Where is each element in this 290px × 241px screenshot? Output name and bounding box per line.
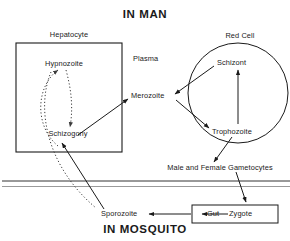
node-label-gametocytes: Male and Female Gametocytes	[167, 164, 272, 171]
life-cycle-diagram: IN MAN IN MOSQUITO Hepatocyte Red Cell P…	[0, 0, 290, 241]
edge-merozoite-to-trophozoite	[176, 100, 209, 128]
edge-sporozoite-to-schizogony	[62, 143, 104, 209]
node-label-trophozoite: Trophozoite	[212, 128, 252, 135]
edge-schizont-to-merozoite	[175, 66, 214, 94]
node-label-schizogony: Schizogony	[48, 130, 87, 137]
edge-hypnozoite-to-sporozoite	[45, 72, 96, 208]
title-in-mosquito: IN MOSQUITO	[103, 224, 187, 236]
edge-hypnozoite-to-schizogony	[66, 70, 72, 127]
region-label-red-cell: Red Cell	[225, 32, 254, 39]
region-label-plasma: Plasma	[133, 55, 158, 62]
node-label-merozoite: Merozoite	[131, 92, 164, 99]
node-label-schizont: Schizont	[217, 59, 246, 66]
region-label-gut: Gut	[207, 210, 219, 217]
title-in-man: IN MAN	[123, 9, 168, 21]
node-label-zygote: Zygote	[229, 210, 252, 217]
node-label-hypnozoite: Hypnozoite	[45, 60, 83, 67]
node-label-sporozoite: Sporozoite	[101, 210, 137, 217]
region-label-hepatocyte: Hepatocyte	[50, 31, 88, 38]
